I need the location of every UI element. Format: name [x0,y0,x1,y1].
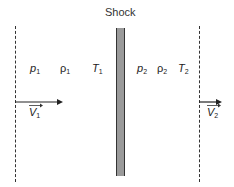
downstream-temperature-label: T2 [178,62,189,75]
upstream-density-label: ρ1 [60,62,70,75]
vector-arrow-icon [29,103,43,108]
downstream-pressure-label: p2 [137,62,147,75]
downstream-velocity-label: V2 [207,106,218,119]
shock-wave-bar [116,28,125,176]
shock-title: Shock [105,6,136,18]
vector-arrow-icon [207,103,221,108]
upstream-pressure-label: p1 [30,62,40,75]
upstream-temperature-label: T1 [92,62,103,75]
downstream-density-label: ρ2 [157,62,167,75]
upstream-velocity-label: V1 [29,106,40,119]
